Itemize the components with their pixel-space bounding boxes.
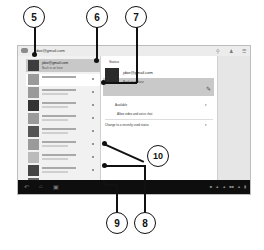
callout-line-7 [136, 27, 138, 83]
contact-name [42, 102, 76, 104]
avatar [28, 126, 39, 137]
contact-name [42, 115, 76, 117]
contact-item[interactable] [26, 100, 100, 112]
callout-line-7h [104, 82, 137, 84]
avatar [28, 139, 39, 150]
battery-icon: ▮ [244, 184, 246, 189]
home-icon[interactable]: ⌂ [39, 183, 43, 190]
nav-buttons: ↶ ⌂ ▣ [24, 183, 59, 190]
contact-name [42, 154, 76, 156]
contact-status [42, 106, 68, 108]
avatar [28, 152, 39, 163]
contact-name [42, 76, 76, 78]
contact-item[interactable] [26, 139, 100, 151]
back-icon[interactable]: ↶ [24, 183, 29, 190]
avatar [28, 100, 39, 111]
menu-icon[interactable]: ☰ [242, 47, 246, 55]
wifi-icon: ▲ [237, 184, 241, 189]
availability-dropdown[interactable]: Available [115, 103, 127, 107]
self-email: jdoe@gmail.com [42, 61, 68, 65]
presence-icon [92, 156, 94, 158]
contact-item[interactable] [26, 152, 100, 164]
contact-item[interactable] [26, 87, 100, 99]
avatar [28, 113, 39, 124]
account-label[interactable]: jdoe@gmail.com [35, 47, 65, 55]
presence-icon [92, 169, 94, 171]
contact-name [42, 128, 76, 130]
presence-icon [92, 78, 94, 80]
status-message-field[interactable]: Back in an hour ✎ [103, 78, 214, 96]
callout-line-5 [34, 27, 36, 54]
allow-video-voice-checkbox[interactable]: Allow video and voice chat [117, 112, 152, 116]
callout-8: 8 [134, 212, 156, 234]
contact-status [42, 158, 68, 160]
callout-point-8 [102, 163, 107, 168]
callout-line-6 [96, 27, 98, 61]
notification-icon: ■ [210, 184, 212, 189]
profile-email: jdoe@gmail.com [123, 70, 153, 75]
clock-icon: ■■ [229, 184, 234, 189]
divider [105, 119, 213, 120]
search-icon[interactable]: ⚲ [216, 47, 220, 55]
callout-point-5 [32, 52, 37, 57]
edit-pencil-icon[interactable]: ✎ [206, 85, 211, 92]
presence-icon [92, 117, 94, 119]
status-heading: Status [109, 60, 119, 64]
presence-icon [92, 130, 94, 132]
callout-point-9 [102, 181, 107, 186]
callout-line-8h [104, 165, 144, 167]
contact-item[interactable] [26, 126, 100, 138]
presence-icon [92, 104, 94, 106]
add-contact-icon[interactable]: ♟ [229, 47, 233, 55]
recent-status-dropdown[interactable]: Change to a recently used status [105, 123, 149, 127]
callout-6: 6 [86, 6, 108, 28]
contact-status [42, 119, 68, 121]
contact-list [26, 74, 100, 191]
callout-line-9v [116, 184, 118, 214]
contact-name [42, 141, 76, 143]
notification-icon: ▲ [222, 184, 226, 189]
talk-app-icon[interactable] [21, 48, 28, 53]
notification-icon: ▲ [215, 184, 219, 189]
contact-status [42, 145, 68, 147]
callout-line-8v [144, 165, 146, 213]
avatar [28, 87, 39, 98]
contact-status [42, 93, 68, 95]
system-bar: ↶ ⌂ ▣ ■ ▲ ▲ ■■ ▲ ▮ [18, 180, 250, 194]
avatar [28, 74, 39, 85]
chevron-down-icon[interactable]: ▾ [205, 103, 207, 107]
callout-point-7 [101, 80, 106, 85]
callout-point-10 [102, 141, 107, 146]
avatar [28, 165, 39, 176]
callout-5: 5 [23, 6, 45, 28]
callout-10: 10 [147, 145, 169, 167]
contact-item[interactable] [26, 74, 100, 86]
contacts-sidebar: jdoe@gmail.com Back in an hour [18, 56, 101, 182]
presence-icon [92, 143, 94, 145]
right-pane [217, 56, 250, 182]
tablet-screen: jdoe@gmail.com ⚲ ♟ ☰ jdoe@gmail.com Back… [17, 45, 251, 195]
callout-7: 7 [125, 6, 147, 28]
chevron-down-icon[interactable]: ▾ [205, 123, 207, 127]
contact-status [42, 132, 68, 134]
contact-name [42, 89, 76, 91]
callout-9: 9 [106, 212, 128, 234]
self-avatar [28, 60, 39, 71]
callout-point-6 [94, 58, 99, 63]
self-entry[interactable]: jdoe@gmail.com Back in an hour [26, 59, 100, 72]
presence-icon [92, 91, 94, 93]
contact-status [42, 171, 68, 173]
contact-item[interactable] [26, 165, 100, 177]
self-status: Back in an hour [42, 66, 63, 70]
recent-apps-icon[interactable]: ▣ [53, 183, 59, 190]
contact-name [42, 167, 76, 169]
top-actions: ⚲ ♟ ☰ [216, 47, 246, 55]
notification-tray[interactable]: ■ ▲ ▲ ■■ ▲ ▮ [210, 184, 246, 189]
contact-item[interactable] [26, 113, 100, 125]
profile-picture[interactable] [105, 68, 119, 82]
